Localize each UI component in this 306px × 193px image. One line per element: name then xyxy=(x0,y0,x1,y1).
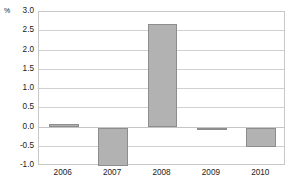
y-axis-tick-label: 0.5 xyxy=(0,103,34,111)
y-axis-tick-label: 2.0 xyxy=(0,46,34,54)
bar-2010 xyxy=(246,128,276,147)
x-axis-tick-label: 2009 xyxy=(202,168,220,178)
plot-area xyxy=(38,11,285,165)
bar-2007 xyxy=(98,128,128,167)
y-axis-tick-label: 1.0 xyxy=(0,84,34,92)
bar-chart: % 3.02.52.01.51.00.50.0-0.5-1.0 20062007… xyxy=(0,0,306,193)
bar-2008 xyxy=(148,24,178,128)
x-axis-tick-labels: 20062007200820092010 xyxy=(38,168,285,182)
x-axis-tick-label: 2008 xyxy=(152,168,170,178)
y-axis-tick-labels: 3.02.52.01.51.00.50.0-0.5-1.0 xyxy=(0,0,34,193)
y-axis-tick-label: 3.0 xyxy=(0,7,34,15)
x-axis-tick-label: 2006 xyxy=(54,168,72,178)
x-axis-tick-label: 2007 xyxy=(103,168,121,178)
y-axis-tick-label: 0.0 xyxy=(0,123,34,131)
y-axis-tick-label: 1.5 xyxy=(0,65,34,73)
y-axis-tick-label: -0.5 xyxy=(0,142,34,150)
y-axis-tick-label: -1.0 xyxy=(0,161,34,169)
bar-2006 xyxy=(49,124,79,128)
x-axis-tick-label: 2010 xyxy=(251,168,269,178)
bar-2009 xyxy=(197,128,227,131)
y-axis-tick-label: 2.5 xyxy=(0,26,34,34)
bars-layer xyxy=(39,12,284,164)
